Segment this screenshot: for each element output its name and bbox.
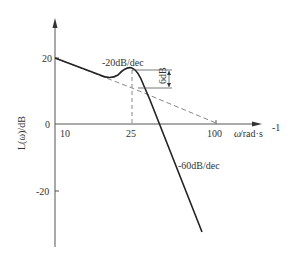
y-axis-arrow-icon — [53, 18, 58, 28]
x-axis-unit-exponent: -1 — [272, 122, 280, 133]
x-tick-label-10: 10 — [60, 128, 70, 139]
slope-label-low: -20dB/dec — [102, 57, 144, 68]
y-tick-label-0: 0 — [45, 119, 50, 130]
bode-plot: 20 0 -20 10 25 100 ω /rad·s -1 L(ω)/dB 6… — [0, 0, 288, 260]
y-tick-label-neg20: -20 — [36, 186, 49, 197]
x-axis-arrow-icon — [252, 122, 262, 127]
y-tick-label-20: 20 — [42, 53, 52, 64]
y-axis-label: L(ω)/dB — [16, 116, 28, 150]
magnitude-curve — [55, 58, 202, 232]
peak-label: 6dB — [157, 67, 168, 84]
slope-label-high: -60dB/dec — [178, 160, 220, 171]
x-tick-label-100: 100 — [207, 128, 222, 139]
x-axis-unit: /rad·s — [240, 128, 263, 139]
x-tick-label-25: 25 — [126, 128, 136, 139]
